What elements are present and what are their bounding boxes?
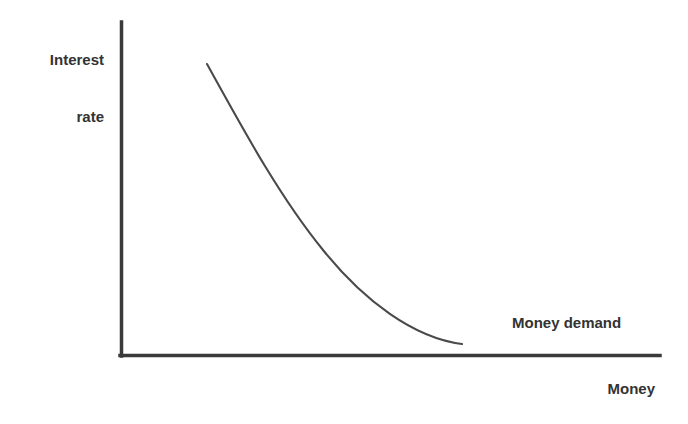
y-axis-label-line-2: rate: [8, 107, 104, 126]
y-axis-label: Interest rate: [8, 12, 104, 164]
y-axis-label-line-1: Interest: [8, 50, 104, 69]
money-demand-curve: [207, 64, 462, 344]
money-demand-chart: Interest rate Money demand Money: [0, 0, 688, 424]
x-axis-label: Money: [543, 379, 655, 398]
money-demand-curve-label: Money demand: [512, 313, 672, 332]
